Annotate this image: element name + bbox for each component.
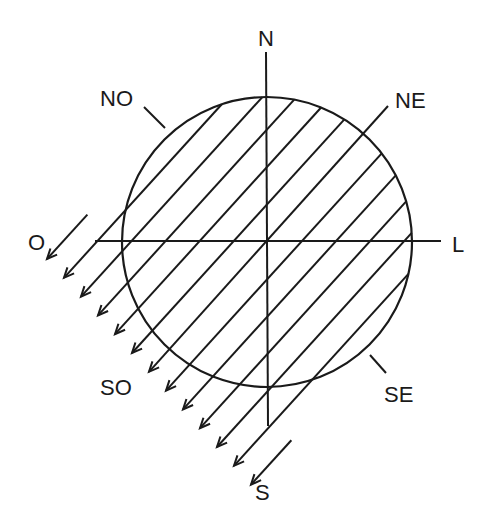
ray-line bbox=[183, 175, 396, 409]
label-north: N bbox=[258, 26, 274, 51]
north-south-axis bbox=[266, 52, 268, 426]
label-southwest: SO bbox=[100, 375, 132, 400]
ray-line bbox=[64, 104, 222, 278]
parallel-rays bbox=[47, 97, 412, 485]
ray-line bbox=[200, 201, 406, 428]
ray-line bbox=[81, 97, 262, 297]
label-south: S bbox=[255, 480, 270, 505]
label-northwest: NO bbox=[100, 86, 133, 111]
ray-line bbox=[132, 119, 344, 353]
ray-line bbox=[47, 215, 87, 259]
ray-line bbox=[115, 107, 321, 334]
ray-line bbox=[251, 440, 291, 484]
ray-line bbox=[166, 153, 382, 390]
label-east: L bbox=[452, 232, 464, 257]
label-northeast: NE bbox=[395, 88, 426, 113]
label-west: O bbox=[28, 230, 45, 255]
label-southeast: SE bbox=[384, 382, 413, 407]
northwest-leader bbox=[144, 107, 165, 128]
southeast-leader bbox=[370, 355, 386, 373]
compass-diagram: N NE L SE S SO O NO bbox=[0, 0, 489, 520]
